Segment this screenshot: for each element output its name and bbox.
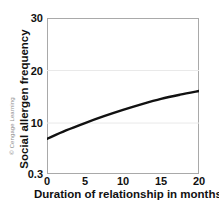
x-tick-label-15: 15 [146,176,176,187]
data-series-group [47,91,199,139]
x-axis-title: Duration of relationship in months [34,188,216,200]
chart-canvas [47,18,199,174]
y-tick-label-30: 30 [3,13,43,24]
gridlines [47,71,199,124]
x-tick-label-0: 0 [32,176,62,187]
y-axis-title: Social allergen frequency [17,19,31,179]
y-tick-label-10: 10 [3,118,43,129]
data-line-0 [47,91,199,139]
x-tick-label-10: 10 [108,176,138,187]
x-tick-label-5: 5 [70,176,100,187]
y-tick-label-20: 20 [3,66,43,77]
x-tick-label-20: 20 [184,176,214,187]
